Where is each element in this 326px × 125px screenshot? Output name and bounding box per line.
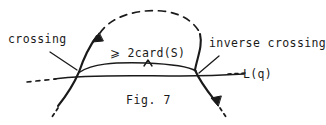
label-crossing: crossing xyxy=(8,34,67,46)
label-cardinality-bound: ⩾ 2card(S) xyxy=(110,48,185,60)
left-branch-curve xyxy=(58,36,97,106)
region-upper-curve xyxy=(80,63,196,72)
figure-caption: Fig. 7 xyxy=(126,95,171,107)
figure-7-diagram: crossing inverse crossing ⩾ 2card(S) L(q… xyxy=(0,0,326,125)
crossing-leader-line xyxy=(50,52,77,70)
right-branch-dashed-tail xyxy=(220,108,226,117)
label-line-lq: L(q) xyxy=(243,69,272,81)
line-lq-dashed-left-tail xyxy=(27,79,56,82)
left-branch-dashed-tail xyxy=(52,108,58,117)
top-dashed-arc xyxy=(100,11,200,33)
label-inverse-crossing: inverse crossing xyxy=(209,38,326,50)
left-branch-arrowhead xyxy=(92,33,103,42)
right-branch-arrowhead xyxy=(211,96,221,106)
line-lq-main xyxy=(54,74,244,79)
inverse-crossing-leader-line xyxy=(199,56,219,73)
